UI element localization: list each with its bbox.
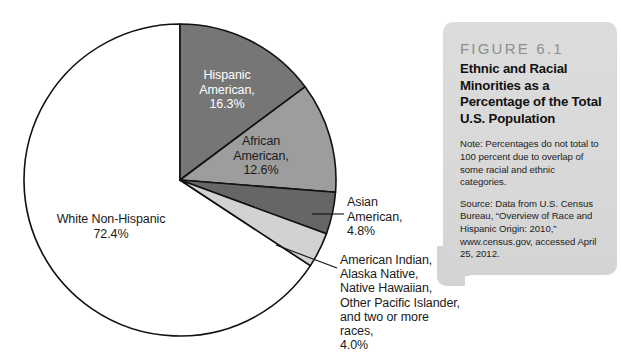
figure-caption-box: FIGURE 6.1 Ethnic and Racial Minorities … (443, 22, 617, 275)
figure-source: Source: Data from U.S. Census Bureau, “O… (460, 198, 603, 261)
figure-root: Hispanic American, 16.3% African America… (0, 0, 621, 353)
figure-number: FIGURE 6.1 (460, 40, 603, 57)
figure-note: Note: Percentages do not total to 100 pe… (460, 138, 603, 188)
pie-label-african-american: African American, 12.6% (218, 134, 304, 178)
pie-label-white-non-hispanic: White Non-Hispanic 72.4% (38, 212, 184, 241)
pie-label-asian-american: Asian American, 4.8% (347, 195, 437, 239)
figure-title: Ethnic and Racial Minorities as a Percen… (460, 61, 603, 127)
pie-chart: Hispanic American, 16.3% African America… (0, 0, 440, 353)
pie-label-hispanic-american: Hispanic American, 16.3% (184, 68, 270, 112)
